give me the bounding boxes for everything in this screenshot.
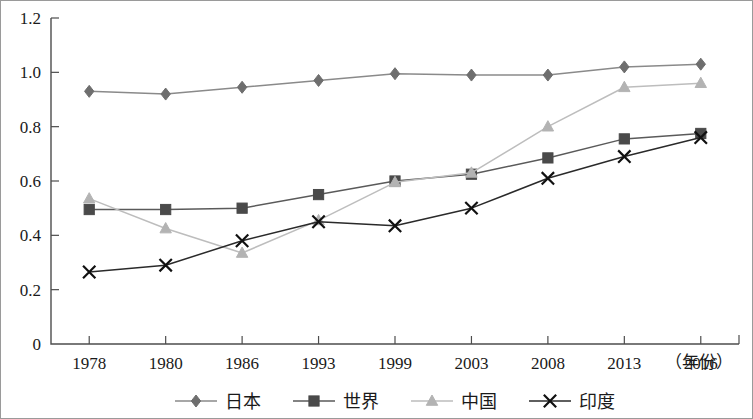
y-tick-label: 0.6 bbox=[20, 172, 41, 191]
marker-triangle bbox=[695, 77, 706, 87]
marker-square bbox=[309, 396, 319, 406]
series-line bbox=[89, 133, 701, 209]
y-tick-label: 1.2 bbox=[20, 9, 41, 28]
marker-triangle bbox=[426, 395, 437, 405]
chart-legend: 日本世界中国印度 bbox=[175, 392, 615, 412]
marker-cross bbox=[618, 150, 630, 162]
y-tick-label: 0.4 bbox=[20, 226, 42, 245]
marker-cross bbox=[542, 172, 554, 184]
legend-item-1[interactable]: 日本 bbox=[175, 392, 261, 412]
series-line bbox=[89, 83, 701, 253]
legend-item-4[interactable]: 印度 bbox=[529, 392, 615, 412]
marker-diamond bbox=[191, 395, 200, 407]
legend-item-3[interactable]: 中国 bbox=[411, 392, 497, 412]
y-tick-label: 0.8 bbox=[20, 118, 41, 137]
x-tick-label: 2013 bbox=[607, 354, 641, 373]
marker-diamond bbox=[390, 68, 399, 80]
y-axis-tick-labels: 00.20.40.60.81.01.2 bbox=[20, 9, 42, 354]
legend-label: 世界 bbox=[343, 392, 379, 412]
marker-triangle bbox=[84, 193, 95, 203]
marker-diamond bbox=[85, 85, 94, 97]
marker-diamond bbox=[161, 88, 170, 100]
legend-label: 印度 bbox=[579, 392, 615, 412]
chart-series-group bbox=[83, 58, 707, 278]
x-tick-label: 1980 bbox=[149, 354, 183, 373]
series-line bbox=[89, 138, 701, 272]
marker-diamond bbox=[237, 81, 246, 93]
line-chart: 00.20.40.60.81.01.2 19781980198619931999… bbox=[1, 1, 753, 419]
legend-label: 日本 bbox=[225, 392, 261, 412]
legend-label: 中国 bbox=[461, 392, 497, 412]
x-tick-label: 2003 bbox=[454, 354, 488, 373]
x-tick-label: 1986 bbox=[225, 354, 259, 373]
marker-diamond bbox=[620, 61, 629, 73]
marker-square bbox=[543, 153, 553, 163]
y-tick-label: 0 bbox=[33, 335, 42, 354]
marker-square bbox=[619, 134, 629, 144]
x-tick-label: 2008 bbox=[531, 354, 565, 373]
x-axis-title: （年份） bbox=[665, 353, 733, 372]
marker-diamond bbox=[467, 69, 476, 81]
marker-diamond bbox=[543, 69, 552, 81]
series-2 bbox=[84, 128, 706, 214]
x-axis-tick-labels: 197819801986199319992003200820132016 bbox=[72, 354, 718, 373]
marker-diamond bbox=[314, 74, 323, 86]
legend-item-2[interactable]: 世界 bbox=[293, 392, 379, 412]
marker-square bbox=[84, 204, 94, 214]
marker-cross bbox=[236, 235, 248, 247]
marker-square bbox=[237, 203, 247, 213]
x-tick-label: 1993 bbox=[302, 354, 336, 373]
x-tick-label: 1999 bbox=[378, 354, 412, 373]
marker-square bbox=[161, 204, 171, 214]
marker-diamond bbox=[696, 58, 705, 70]
marker-square bbox=[313, 189, 323, 199]
series-3 bbox=[84, 77, 707, 257]
y-tick-label: 0.2 bbox=[20, 281, 41, 300]
series-4 bbox=[83, 131, 707, 278]
y-tick-label: 1.0 bbox=[20, 63, 41, 82]
marker-cross bbox=[465, 202, 477, 214]
chart-figure: 00.20.40.60.81.01.2 19781980198619931999… bbox=[0, 0, 753, 419]
x-tick-label: 1978 bbox=[72, 354, 106, 373]
marker-triangle bbox=[542, 121, 553, 131]
